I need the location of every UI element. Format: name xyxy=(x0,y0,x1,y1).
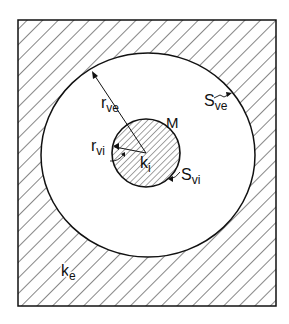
label-M: M xyxy=(166,114,179,131)
diagram-canvas: rve M rvi ki Svi Sve ke xyxy=(0,0,289,324)
